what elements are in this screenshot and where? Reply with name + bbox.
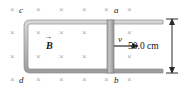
label-node-c: c bbox=[19, 6, 23, 15]
label-dimension-50cm: 50.0 cm bbox=[128, 41, 159, 51]
label-node-a: a bbox=[114, 6, 119, 15]
label-magnetic-field-B: B bbox=[46, 41, 53, 51]
label-node-b: b bbox=[114, 76, 119, 85]
label-velocity-v: v bbox=[118, 35, 122, 44]
label-node-d: d bbox=[19, 76, 24, 85]
dimension-arrow-icon bbox=[166, 18, 178, 74]
physics-figure-rail-in-magnetic-field: × × × × × × × × × × × × × × × × × × × × … bbox=[0, 0, 186, 93]
sliding-bar[interactable] bbox=[107, 20, 114, 73]
